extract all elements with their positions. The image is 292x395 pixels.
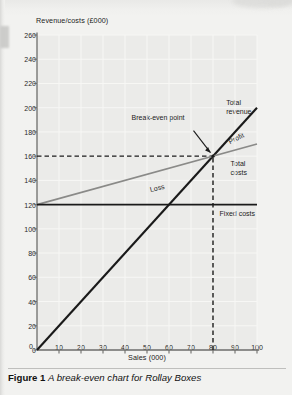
figure-caption: Figure 1 A break-even chart for Rollay B…	[8, 372, 288, 383]
chart-svg	[8, 14, 286, 362]
break-even-chart: Revenue/costs (£000) Sales (000) 0204060…	[8, 14, 286, 362]
figure-caption-text: A break-even chart for Rollay Boxes	[48, 372, 201, 383]
figure-number: Figure 1	[8, 372, 45, 383]
figure-page: Revenue/costs (£000) Sales (000) 0204060…	[0, 0, 292, 395]
break-even-arrow-head	[205, 147, 210, 153]
caption-rule	[8, 368, 286, 369]
break-even-point-marker	[211, 155, 214, 158]
